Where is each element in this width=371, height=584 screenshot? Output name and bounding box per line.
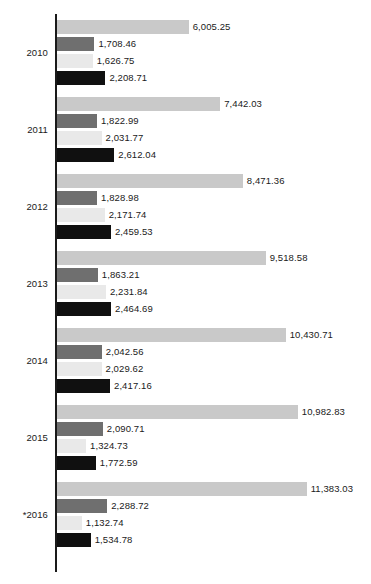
- bar-series-3-2012[interactable]: [57, 208, 105, 222]
- bar-series-1-2011[interactable]: [57, 97, 220, 111]
- bar-row: 1,828.98: [57, 191, 371, 205]
- bar-value-label: 1,828.98: [97, 191, 139, 205]
- plot-area: 20106,005.251,708.461,626.752,208.712011…: [0, 0, 371, 584]
- bar-row: 8,471.36: [57, 174, 371, 188]
- bar-row: 2,459.53: [57, 225, 371, 239]
- bar-series-2-2015[interactable]: [57, 422, 103, 436]
- bar-row: 1,863.21: [57, 268, 371, 282]
- bar-value-label: 1,772.59: [96, 456, 138, 470]
- bar-row: 2,042.56: [57, 345, 371, 359]
- category-label-2010: 2010: [0, 47, 48, 58]
- bar-value-label: 10,982.83: [298, 405, 345, 419]
- bar-row: 2,464.69: [57, 302, 371, 316]
- bar-row: 2,417.16: [57, 379, 371, 393]
- bar-row: 2,031.77: [57, 131, 371, 145]
- bar-series-1-2010[interactable]: [57, 20, 189, 34]
- bar-series-2-2014[interactable]: [57, 345, 102, 359]
- bar-value-label: 2,464.69: [111, 302, 153, 316]
- bar-value-label: 8,471.36: [243, 174, 285, 188]
- year-group: 20128,471.361,828.982,171.742,459.53: [0, 174, 371, 239]
- bar-chart: 20106,005.251,708.461,626.752,208.712011…: [0, 0, 371, 584]
- bar-row: 1,534.78: [57, 533, 371, 547]
- bar-series-1-2013[interactable]: [57, 251, 266, 265]
- bar-series-1-2012[interactable]: [57, 174, 243, 188]
- bar-series-3-2013[interactable]: [57, 285, 106, 299]
- category-label-2015: 2015: [0, 432, 48, 443]
- bar-series-3-2011[interactable]: [57, 131, 102, 145]
- bar-value-label: 1,324.73: [86, 439, 128, 453]
- bar-row: 2,171.74: [57, 208, 371, 222]
- bar-row: 9,518.58: [57, 251, 371, 265]
- category-label-star2016: *2016: [0, 509, 48, 520]
- bar-value-label: 2,208.71: [105, 71, 147, 85]
- bar-value-label: 2,171.74: [105, 208, 147, 222]
- bar-row: 7,442.03: [57, 97, 371, 111]
- category-label-2012: 2012: [0, 201, 48, 212]
- bar-value-label: 6,005.25: [189, 20, 231, 34]
- bar-row: 1,772.59: [57, 456, 371, 470]
- bar-row: 6,005.25: [57, 20, 371, 34]
- bar-series-1-2015[interactable]: [57, 405, 298, 419]
- bar-row: 10,430.71: [57, 328, 371, 342]
- category-label-2013: 2013: [0, 278, 48, 289]
- bar-series-2-2012[interactable]: [57, 191, 97, 205]
- bar-series-4-2014[interactable]: [57, 379, 110, 393]
- year-group: 201510,982.832,090.711,324.731,772.59: [0, 405, 371, 470]
- bar-value-label: 10,430.71: [286, 328, 333, 342]
- bar-value-label: 7,442.03: [220, 97, 262, 111]
- bar-series-2-2010[interactable]: [57, 37, 94, 51]
- bar-series-3-2010[interactable]: [57, 54, 93, 68]
- bar-row: 11,383.03: [57, 482, 371, 496]
- bar-value-label: 2,612.04: [114, 148, 156, 162]
- bar-value-label: 1,534.78: [91, 533, 133, 547]
- bar-row: 1,626.75: [57, 54, 371, 68]
- bar-series-1-star2016[interactable]: [57, 482, 307, 496]
- bar-series-4-2013[interactable]: [57, 302, 111, 316]
- bar-row: 2,208.71: [57, 71, 371, 85]
- bar-value-label: 1,626.75: [93, 54, 135, 68]
- year-group: *201611,383.032,288.721,132.741,534.78: [0, 482, 371, 547]
- bar-row: 1,324.73: [57, 439, 371, 453]
- bar-value-label: 2,231.84: [106, 285, 148, 299]
- bar-series-4-2012[interactable]: [57, 225, 111, 239]
- bar-series-3-star2016[interactable]: [57, 516, 82, 530]
- category-label-2014: 2014: [0, 355, 48, 366]
- bar-value-label: 1,863.21: [98, 268, 140, 282]
- bar-row: 10,982.83: [57, 405, 371, 419]
- year-group: 20139,518.581,863.212,231.842,464.69: [0, 251, 371, 316]
- bar-row: 1,132.74: [57, 516, 371, 530]
- bar-value-label: 11,383.03: [307, 482, 353, 496]
- bar-value-label: 9,518.58: [266, 251, 308, 265]
- bar-value-label: 1,822.99: [97, 114, 139, 128]
- bar-series-2-2013[interactable]: [57, 268, 98, 282]
- bar-value-label: 2,029.62: [102, 362, 144, 376]
- bar-value-label: 2,090.71: [103, 422, 145, 436]
- bar-row: 2,231.84: [57, 285, 371, 299]
- bar-series-2-star2016[interactable]: [57, 499, 107, 513]
- bar-value-label: 1,708.46: [94, 37, 136, 51]
- bar-series-4-2011[interactable]: [57, 148, 114, 162]
- year-group: 20106,005.251,708.461,626.752,208.71: [0, 20, 371, 85]
- bar-row: 1,822.99: [57, 114, 371, 128]
- year-group: 201410,430.712,042.562,029.622,417.16: [0, 328, 371, 393]
- bar-value-label: 2,042.56: [102, 345, 144, 359]
- year-group: 20117,442.031,822.992,031.772,612.04: [0, 97, 371, 162]
- bar-value-label: 2,288.72: [107, 499, 149, 513]
- bar-row: 2,612.04: [57, 148, 371, 162]
- bar-series-4-2015[interactable]: [57, 456, 96, 470]
- bar-series-1-2014[interactable]: [57, 328, 286, 342]
- bar-value-label: 2,459.53: [111, 225, 153, 239]
- bar-value-label: 2,031.77: [102, 131, 144, 145]
- bar-series-2-2011[interactable]: [57, 114, 97, 128]
- bar-series-3-2015[interactable]: [57, 439, 86, 453]
- bar-row: 2,288.72: [57, 499, 371, 513]
- bar-row: 2,090.71: [57, 422, 371, 436]
- category-label-2011: 2011: [0, 124, 48, 135]
- bar-row: 1,708.46: [57, 37, 371, 51]
- bar-series-3-2014[interactable]: [57, 362, 102, 376]
- bar-series-4-star2016[interactable]: [57, 533, 91, 547]
- bar-series-4-2010[interactable]: [57, 71, 105, 85]
- bar-value-label: 1,132.74: [82, 516, 124, 530]
- bar-value-label: 2,417.16: [110, 379, 152, 393]
- bar-row: 2,029.62: [57, 362, 371, 376]
